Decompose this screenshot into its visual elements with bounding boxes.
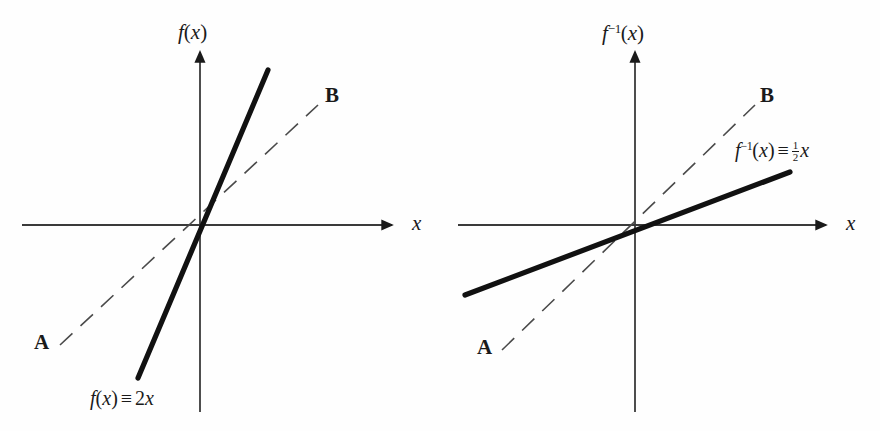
equation-label-f-inverse: f−1(x)≡12x	[735, 140, 809, 163]
x-axis-label: x	[412, 213, 421, 234]
reference-point-label-b: B	[760, 85, 774, 106]
reference-line-y-equals-x	[502, 105, 755, 350]
x-axis-label: x	[846, 213, 855, 234]
inverse-function-figure: f(x) x A B f(x)≡2x f−1(x) x A B	[0, 0, 880, 431]
reference-point-label-b: B	[325, 85, 339, 106]
function-line-f	[138, 70, 268, 378]
function-line-f-inverse	[465, 172, 790, 295]
plot-canvas-f	[0, 0, 440, 431]
plot-panel-f-inverse: f−1(x) x A B f−1(x)≡12x	[440, 0, 880, 431]
y-axis-label-f-inverse: f−1(x)	[602, 22, 644, 44]
one-half-fraction: 12	[792, 140, 800, 163]
equation-label-f: f(x)≡2x	[90, 388, 154, 408]
plot-panel-f: f(x) x A B f(x)≡2x	[0, 0, 440, 431]
reference-point-label-a: A	[477, 337, 492, 358]
reference-point-label-a: A	[34, 332, 49, 353]
plot-canvas-f-inverse	[440, 0, 880, 431]
y-axis-label-f: f(x)	[178, 22, 207, 43]
